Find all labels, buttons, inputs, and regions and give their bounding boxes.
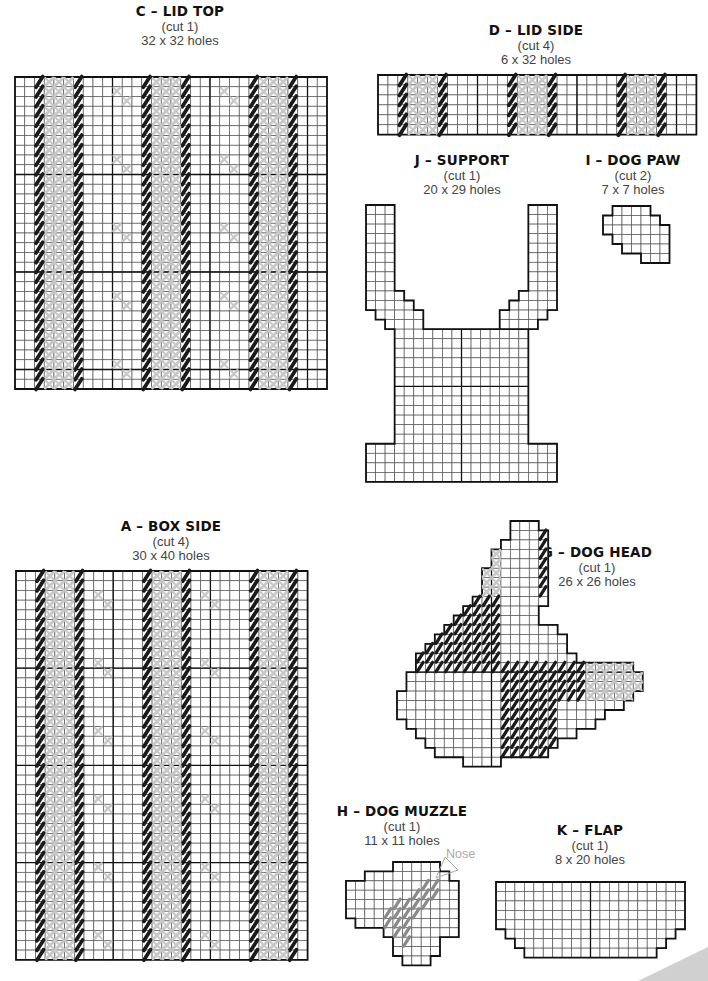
piece-h-grid — [346, 862, 459, 965]
pattern-canvas — [0, 0, 708, 981]
page-curl-decoration — [638, 947, 708, 981]
piece-c-grid — [15, 77, 327, 390]
piece-a-grid — [16, 571, 308, 961]
piece-g-grid — [397, 521, 643, 767]
piece-j-grid — [366, 205, 557, 482]
piece-i-grid — [603, 206, 670, 263]
piece-d-grid — [378, 75, 696, 136]
